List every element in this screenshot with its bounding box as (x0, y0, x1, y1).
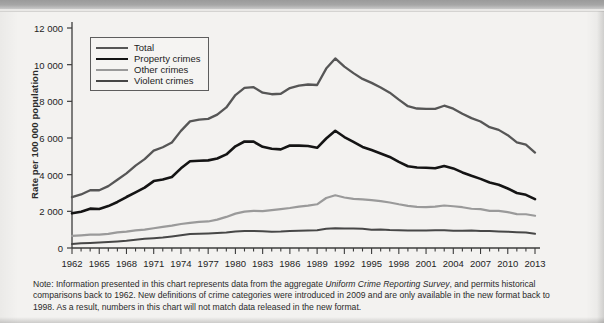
x-tick-label: 2001 (415, 258, 436, 269)
x-tick-label: 1980 (225, 258, 246, 269)
x-tick-label: 1995 (361, 258, 382, 269)
scanned-chart-page: Rate per 100 000 population 02 0004 0006… (0, 0, 604, 323)
x-tick-label: 2010 (497, 258, 518, 269)
page-bottom-edge-shadow (0, 317, 604, 323)
note-part1: Note: Information presented in this char… (33, 279, 325, 289)
page-right-edge-shadow (597, 11, 604, 323)
legend-item: Total (96, 42, 201, 53)
page-header-band (0, 0, 604, 9)
x-tick-label: 1977 (198, 258, 219, 269)
legend-item-label: Total (134, 42, 154, 53)
chart-note: Note: Information presented in this char… (33, 279, 553, 313)
y-tick-label: 8 000 (15, 96, 63, 107)
x-tick-label: 1986 (279, 258, 300, 269)
y-tick-label: 2 000 (15, 206, 63, 217)
note-italic-survey-name: Uniform Crime Reporting Survey (325, 279, 449, 289)
x-tick-label: 2004 (443, 258, 464, 269)
x-tick-label: 1983 (252, 258, 273, 269)
legend-line-swatch (96, 58, 128, 60)
legend-item: Other crimes (96, 64, 201, 75)
legend-item: Violent crimes (96, 75, 201, 86)
legend-line-swatch (96, 69, 128, 71)
y-tick-label: 12 000 (15, 23, 63, 34)
series-line-property-crimes (72, 131, 535, 214)
x-tick-label: 1992 (334, 258, 355, 269)
legend-line-swatch (96, 80, 128, 82)
x-tick-label: 1989 (307, 258, 328, 269)
y-tick-label: 10 000 (15, 59, 63, 70)
x-tick-label: 1965 (89, 258, 110, 269)
legend-item: Property crimes (96, 53, 201, 64)
legend-item-label: Violent crimes (134, 75, 194, 86)
x-tick-label: 1998 (388, 258, 409, 269)
x-tick-label: 2007 (470, 258, 491, 269)
chart-legend: TotalProperty crimesOther crimesViolent … (90, 37, 209, 91)
chart-figure: Rate per 100 000 population 02 0004 0006… (0, 11, 604, 323)
legend-line-swatch (96, 47, 128, 49)
y-tick-label: 6 000 (15, 133, 63, 144)
legend-item-label: Property crimes (134, 53, 201, 64)
x-tick-label: 2013 (524, 258, 545, 269)
legend-item-label: Other crimes (134, 64, 188, 75)
x-tick-label: 1971 (143, 258, 164, 269)
y-tick-label: 0 (15, 243, 63, 254)
x-tick-label: 1962 (61, 258, 82, 269)
x-tick-label: 1968 (116, 258, 137, 269)
x-tick-label: 1974 (170, 258, 191, 269)
y-tick-label: 4 000 (15, 169, 63, 180)
